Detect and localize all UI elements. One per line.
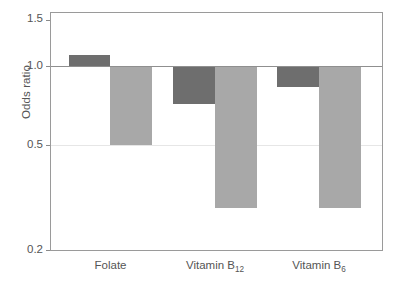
plot-inner (51, 13, 382, 250)
x-axis-label-folate: Folate (51, 259, 171, 271)
y-tick-label: 0.2 (15, 244, 43, 256)
y-tick-label: 1.5 (15, 13, 43, 25)
reference-line-1 (51, 66, 382, 67)
x-axis-label-vitamin-b12: Vitamin B12 (155, 259, 275, 271)
bar-vitamin-b12-light (215, 66, 257, 208)
plot-area (50, 12, 383, 251)
bar-vitamin-b6-dark (277, 66, 319, 87)
bar-folate-dark (69, 55, 110, 66)
bar-vitamin-b6-light (319, 66, 361, 208)
bar-folate-light (110, 66, 152, 145)
odds-ratio-bar-chart: Odds ratio 1.51.00.50.2 FolateVitamin B1… (0, 0, 394, 284)
x-axis-label-vitamin-b6: Vitamin B6 (259, 259, 379, 271)
y-tick-label: 1.0 (15, 60, 43, 72)
y-tick-label: 0.5 (15, 139, 43, 151)
bar-vitamin-b12-dark (173, 66, 215, 104)
